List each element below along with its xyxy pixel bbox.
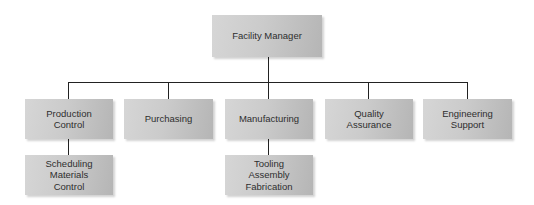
- node-label: Facility Manager: [232, 30, 302, 42]
- node-engineering-support: Engineering Support: [423, 99, 512, 139]
- node-label: Production Control: [46, 108, 91, 131]
- node-label: Manufacturing: [239, 113, 299, 125]
- node-manufacturing: Manufacturing: [225, 99, 313, 139]
- connector-quality-assurance: [368, 82, 369, 99]
- connector-production-control: [68, 82, 69, 99]
- connector-engineering-support: [467, 82, 468, 99]
- connector-manufacturing: [268, 82, 269, 99]
- connector-manufacturing-to-tooling: [268, 138, 269, 155]
- node-label: Tooling Assembly Fabrication: [246, 158, 293, 193]
- node-scheduling-materials-control: Scheduling Materials Control: [25, 155, 113, 195]
- node-label: Scheduling Materials Control: [45, 158, 92, 193]
- connector-root-down: [268, 57, 269, 83]
- node-purchasing: Purchasing: [124, 99, 213, 139]
- node-label: Purchasing: [145, 113, 193, 125]
- connector-production-to-scheduling: [68, 138, 69, 155]
- node-production-control: Production Control: [25, 99, 113, 139]
- connector-purchasing: [168, 82, 169, 99]
- node-tooling-assembly-fabrication: Tooling Assembly Fabrication: [225, 155, 313, 195]
- node-label: Engineering Support: [442, 108, 493, 131]
- node-label: Quality Assurance: [347, 108, 392, 131]
- node-facility-manager: Facility Manager: [212, 15, 322, 57]
- node-quality-assurance: Quality Assurance: [325, 99, 413, 139]
